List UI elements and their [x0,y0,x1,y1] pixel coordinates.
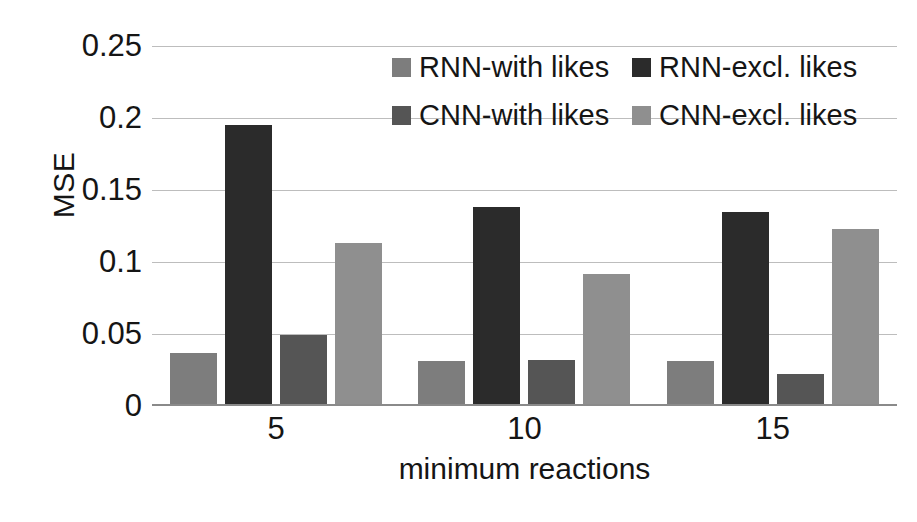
bar [722,212,769,406]
legend-swatch-icon [632,58,651,77]
bar [667,361,714,406]
bar-group [152,46,400,406]
x-axis-tick-label: 15 [649,412,897,446]
bar [418,361,465,406]
legend-swatch-icon [392,58,411,77]
bar [583,274,630,406]
legend-label: CNN-with likes [419,100,609,130]
legend-item: CNN-with likes [392,100,609,130]
bar [335,243,382,406]
legend-item: RNN-excl. likes [632,52,857,82]
x-axis-tick-label: 10 [400,412,648,446]
legend-label: CNN-excl. likes [659,100,857,130]
chart-legend: RNN-with likesRNN-excl. likesCNN-with li… [392,52,897,148]
bar [473,207,520,406]
y-axis-tick-labels: 0.250.20.150.10.050 [30,0,142,522]
legend-swatch-icon [392,106,411,125]
legend-item: CNN-excl. likes [632,100,857,130]
bar [170,353,217,406]
bar [832,229,879,406]
y-axis-tick-label: 0.15 [32,174,142,205]
y-axis-tick-label: 0.25 [32,30,142,61]
legend-label: RNN-with likes [419,52,609,82]
bar [280,335,327,406]
bar [777,374,824,406]
x-axis-line [152,404,897,406]
y-axis-tick-label: 0 [32,390,142,421]
y-axis-tick-label: 0.2 [32,102,142,133]
legend-item: RNN-with likes [392,52,609,82]
legend-swatch-icon [632,106,651,125]
x-axis-tick-label: 5 [152,412,400,446]
y-axis-tick-label: 0.05 [32,318,142,349]
x-axis-title: minimum reactions [152,452,897,486]
legend-label: RNN-excl. likes [659,52,857,82]
bar-chart: MSE 0.250.20.150.10.050 51015 minimum re… [0,0,917,522]
bar [528,360,575,406]
bar [225,125,272,406]
y-axis-tick-label: 0.1 [32,246,142,277]
x-axis-tick-labels: 51015 [152,412,897,456]
